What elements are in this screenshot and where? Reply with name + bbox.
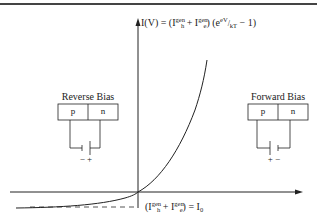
forward-n-label: n: [278, 107, 308, 116]
saturation-current-label: (Igenh + Igene) = I0: [145, 202, 203, 212]
reverse-circuit-wire: [70, 120, 82, 148]
reverse-p-label: p: [58, 107, 88, 116]
iv-equation: I(V) = (Igenh + Igene) (eeV/kT − 1): [141, 18, 256, 28]
iv-curve: [16, 60, 207, 208]
forward-circuit-wire: [257, 120, 270, 148]
reverse-n-label: n: [88, 107, 118, 116]
forward-bias-title: Forward Bias: [248, 92, 308, 102]
x-axis-arrow-icon: [295, 190, 303, 195]
y-axis-arrow-icon: [136, 18, 141, 26]
reverse-polarity-label: − +: [74, 155, 98, 164]
reverse-bias-title: Reverse Bias: [58, 92, 118, 102]
forward-polarity-label: + −: [262, 155, 286, 164]
forward-p-label: p: [248, 107, 278, 116]
